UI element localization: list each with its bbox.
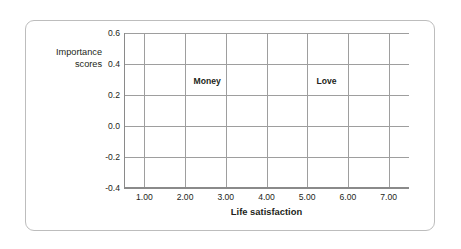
x-axis-title: Life satisfaction [124, 206, 409, 217]
y-tick-label: -0.4 [90, 183, 120, 193]
gridline-vertical [348, 33, 349, 188]
gridline-horizontal [124, 188, 409, 189]
x-axis-line [124, 187, 409, 189]
series-label-money: Money [194, 76, 221, 86]
series-label-love: Love [317, 76, 337, 86]
y-tick-label: 0.0 [90, 121, 120, 131]
x-tick-label: 6.00 [328, 192, 368, 202]
y-tick-label: 0.2 [90, 90, 120, 100]
x-tick-label: 3.00 [206, 192, 246, 202]
y-tick-label: 0.6 [90, 28, 120, 38]
y-tick-label: 0.4 [90, 59, 120, 69]
y-axis-line [124, 33, 125, 188]
gridline-vertical [185, 33, 186, 188]
gridline-vertical [144, 33, 145, 188]
x-tick-label: 4.00 [247, 192, 287, 202]
x-tick-label: 7.00 [369, 192, 409, 202]
x-tick-label: 1.00 [124, 192, 164, 202]
x-axis-tick-labels: 1.002.003.004.005.006.007.00 [124, 192, 409, 206]
gridline-vertical [389, 33, 390, 188]
gridline-vertical [307, 33, 308, 188]
gridline-vertical [267, 33, 268, 188]
y-tick-label: -0.2 [90, 152, 120, 162]
figure-container: Importance scores 0.60.40.20.0-0.2-0.4 M… [0, 0, 461, 249]
plot-area: Money Love [124, 33, 409, 188]
y-axis-tick-labels: 0.60.40.20.0-0.2-0.4 [88, 33, 120, 188]
x-tick-label: 5.00 [287, 192, 327, 202]
gridline-vertical [226, 33, 227, 188]
x-tick-label: 2.00 [165, 192, 205, 202]
